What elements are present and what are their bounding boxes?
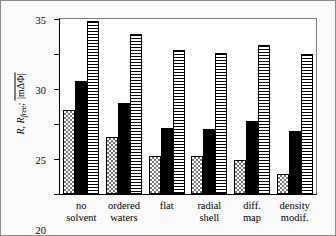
y-axis-tick-label: 30 <box>36 85 47 96</box>
bar-mdphi <box>301 54 313 194</box>
y-axis-tick-label: 35 <box>36 15 47 26</box>
y-axis-tick-label: 20 <box>36 225 47 236</box>
bar-group: nosolvent <box>60 19 103 194</box>
bar-group: densitymodif. <box>273 19 316 194</box>
y-axis-title-subscript: free <box>19 106 28 117</box>
bar-group: flat <box>145 19 188 194</box>
bar-rfree <box>161 128 173 194</box>
bar-r <box>191 156 203 194</box>
y-axis-tick-label: 25 <box>36 155 47 166</box>
bar-rfree <box>246 121 258 194</box>
plot-area: 101520253035nosolventorderedwatersflatra… <box>59 18 317 195</box>
bar-mdphi <box>87 21 99 194</box>
y-axis-tick: 10 <box>54 194 60 195</box>
bar-mdphi <box>258 45 270 194</box>
bar-rfree <box>118 103 130 194</box>
bar-mdphi <box>130 34 142 194</box>
y-axis-title-main: R, R <box>15 117 26 134</box>
bar-rfree <box>289 131 301 194</box>
x-axis-category-line: modif. <box>263 212 327 224</box>
y-axis-title-overlined: |mΔΦ| <box>15 73 27 101</box>
bar-group: radialshell <box>188 19 231 194</box>
y-axis-title: R, Rfree; |mΔΦ| <box>15 40 28 168</box>
bar-r <box>234 160 246 194</box>
y-axis-title-separator: ; <box>15 103 26 106</box>
figure-panel: R, Rfree; |mΔΦ| 101520253035nosolventord… <box>0 0 336 236</box>
bar-mdphi <box>215 53 227 194</box>
bar-mdphi <box>173 50 185 194</box>
bar-r <box>277 174 289 194</box>
bar-rfree <box>203 129 215 194</box>
bar-rfree <box>75 81 87 194</box>
x-axis-category-line: waters <box>92 212 156 224</box>
bar-group: orderedwaters <box>103 19 146 194</box>
x-axis-category-line: density <box>263 200 327 212</box>
x-axis-category-label: densitymodif. <box>263 200 327 223</box>
bar-r <box>106 137 118 194</box>
bar-r <box>63 110 75 194</box>
bar-group: diff.map <box>231 19 274 194</box>
bar-r <box>149 156 161 195</box>
